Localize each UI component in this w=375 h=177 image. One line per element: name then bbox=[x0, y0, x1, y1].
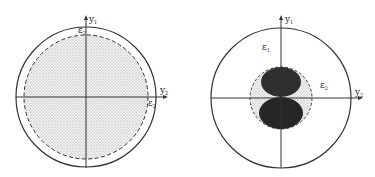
left-vertical-arrow-icon bbox=[84, 15, 88, 20]
right-y1-label: y1 bbox=[284, 14, 293, 25]
left-y1-label: y1 bbox=[88, 14, 97, 25]
diagram-canvas: y1 y2 ε2 ε2 y1 y2 ε1 ε2 bbox=[0, 0, 375, 177]
right-epsilon1-label: ε1 bbox=[262, 42, 270, 53]
left-figure: y1 y2 ε2 ε2 bbox=[16, 14, 168, 168]
right-epsilon2-label: ε2 bbox=[320, 80, 328, 91]
right-figure: y1 y2 ε1 ε2 bbox=[211, 14, 363, 168]
left-epsilon-right-label: ε2 bbox=[148, 98, 156, 109]
right-vertical-arrow-icon bbox=[279, 15, 283, 20]
left-y2-label: y2 bbox=[159, 85, 168, 96]
right-y2-label: y2 bbox=[354, 87, 363, 98]
